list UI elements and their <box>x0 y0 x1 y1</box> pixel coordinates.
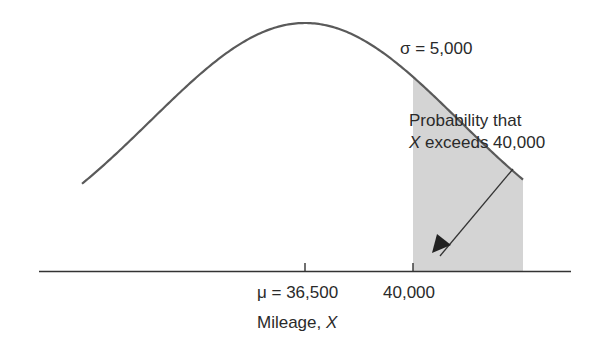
probability-annotation-line2: X exceeds 40,000 <box>409 132 545 154</box>
x-axis-label-text: Mileage, <box>257 313 326 332</box>
x-axis-label-variable: X <box>326 313 337 332</box>
probability-annotation-line1: Probability that <box>409 110 545 132</box>
shaded-tail-region <box>413 77 523 271</box>
sigma-annotation: σ = 5,000 <box>400 39 472 59</box>
x-axis-label: Mileage, X <box>257 313 337 333</box>
probability-annotation-line2-text: exceeds 40,000 <box>420 133 545 152</box>
variable-x: X <box>409 133 420 152</box>
tick-label-mean: μ = 36,500 <box>257 283 338 303</box>
tick-label-40000: 40,000 <box>383 283 435 303</box>
probability-annotation: Probability that X exceeds 40,000 <box>409 110 545 154</box>
chart-canvas: σ = 5,000 Probability that X exceeds 40,… <box>0 0 597 354</box>
